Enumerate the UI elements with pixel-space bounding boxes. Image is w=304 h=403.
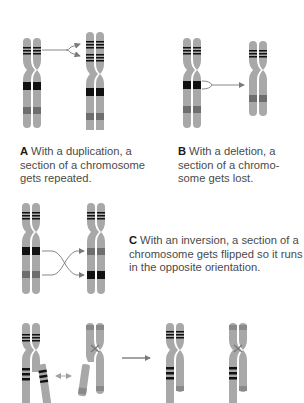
panel-d-result-chromosome-1: [166, 323, 184, 403]
caption-a-line2: section of a chromosome: [20, 159, 145, 171]
panel-c-inverted-chromosome: [87, 203, 105, 294]
caption-a-line3: gets repeated.: [20, 172, 92, 184]
panel-b-deleted-chromosome: [249, 41, 267, 116]
caption-a-line1: With a duplication, a: [31, 145, 132, 157]
caption-c-line2: chromosome gets flipped so it runs: [129, 248, 303, 260]
caption-b-line1: With a deletion, a: [189, 145, 275, 157]
panel-a-original-chromosome: [23, 38, 41, 128]
panel-c-original-chromosome: [22, 203, 40, 294]
caption-c-line1: With an inversion, a section of a: [140, 234, 299, 246]
caption-b: BWith a deletion, a section of a chromo-…: [178, 145, 303, 186]
caption-a: AWith a duplication, a section of a chro…: [20, 145, 155, 186]
panel-a-duplication-arrow: [42, 44, 80, 56]
caption-c-line3: in the opposite orientation.: [129, 261, 260, 273]
panel-a-duplicated-chromosome: [86, 32, 104, 130]
caption-a-letter: A: [20, 145, 28, 157]
panel-d-chromosome-1-broken: [22, 323, 51, 403]
caption-c-letter: C: [129, 234, 137, 246]
caption-b-letter: B: [178, 145, 186, 157]
chromosome-mutations-diagram: [0, 0, 304, 403]
panel-d-result-chromosome-2: [229, 323, 247, 403]
caption-b-line3: some gets lost.: [178, 172, 253, 184]
caption-b-line2: section of a chromo-: [178, 159, 279, 171]
panel-b-deletion-arrow: [202, 81, 244, 89]
caption-c: CWith an inversion, a section of a chrom…: [129, 234, 304, 275]
panel-b-original-chromosome: [183, 38, 201, 128]
panel-c-inversion-arrows: [42, 251, 84, 275]
panel-d-chromosome-2-broken: [78, 323, 104, 397]
